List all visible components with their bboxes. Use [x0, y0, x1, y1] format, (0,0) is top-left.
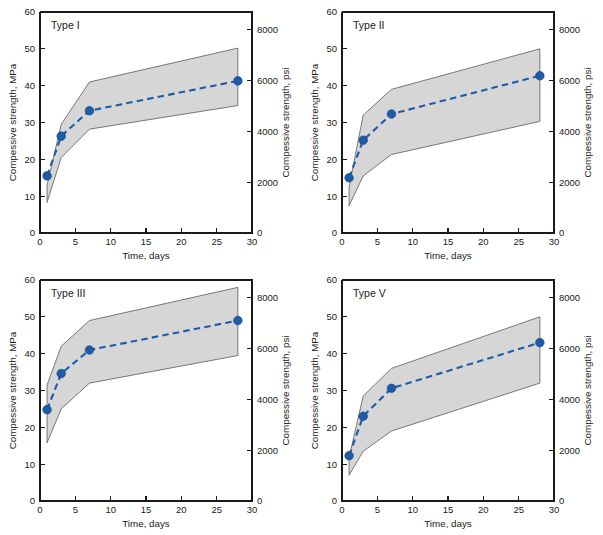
- chart-panel-type-i: 0102030405060020004000600080000510152025…: [0, 0, 301, 267]
- y-left-tick-label: 30: [24, 385, 35, 396]
- chart-svg: 0102030405060020004000600080000510152025…: [302, 268, 603, 535]
- y-right-tick-label: 2000: [559, 177, 580, 188]
- y-left-axis-title: Compessive strength, MPa: [309, 63, 320, 181]
- y-right-tick-label: 2000: [257, 177, 278, 188]
- data-point-marker: [43, 405, 52, 414]
- y-right-axis-title: Compessive strength, psi: [280, 68, 291, 178]
- y-right-tick-label: 6000: [559, 75, 580, 86]
- y-left-tick-label: 40: [24, 348, 35, 359]
- y-right-axis-title: Compessive strength, psi: [582, 68, 593, 178]
- y-left-tick-label: 30: [24, 117, 35, 128]
- y-left-tick-label: 50: [24, 43, 35, 54]
- y-right-tick-label: 8000: [559, 292, 580, 303]
- y-right-tick-label: 2000: [257, 445, 278, 456]
- data-point-marker: [345, 451, 354, 460]
- y-left-tick-label: 0: [30, 495, 35, 506]
- data-point-marker: [234, 316, 243, 325]
- range-band: [47, 48, 238, 202]
- y-left-tick-label: 40: [24, 80, 35, 91]
- x-tick-label: 15: [141, 504, 152, 515]
- y-left-tick-label: 50: [326, 43, 337, 54]
- x-axis-title: Time, days: [424, 250, 472, 261]
- x-tick-label: 5: [375, 236, 380, 247]
- x-tick-label: 25: [513, 236, 524, 247]
- x-tick-label: 25: [211, 504, 222, 515]
- chart-panel-type-ii: 0102030405060020004000600080000510152025…: [302, 0, 603, 267]
- x-tick-label: 5: [73, 504, 78, 515]
- y-right-tick-label: 0: [257, 495, 262, 506]
- x-tick-label: 30: [549, 236, 560, 247]
- y-right-axis-title: Compessive strength, psi: [280, 336, 291, 446]
- x-tick-label: 15: [443, 504, 454, 515]
- panel-label: Type V: [353, 287, 386, 299]
- y-right-tick-label: 8000: [257, 292, 278, 303]
- y-left-tick-label: 10: [326, 459, 337, 470]
- x-tick-label: 30: [247, 236, 258, 247]
- x-tick-label: 30: [549, 504, 560, 515]
- y-right-tick-label: 0: [559, 227, 564, 238]
- panel-label: Type II: [353, 19, 385, 31]
- y-left-axis-title: Compessive strength, MPa: [309, 331, 320, 449]
- chart-panel-type-iii: 0102030405060020004000600080000510152025…: [0, 268, 301, 535]
- y-left-tick-label: 20: [326, 154, 337, 165]
- data-point-marker: [57, 132, 66, 141]
- x-tick-label: 10: [105, 504, 116, 515]
- chart-svg: 0102030405060020004000600080000510152025…: [302, 0, 603, 267]
- y-left-tick-label: 40: [326, 348, 337, 359]
- x-tick-label: 10: [105, 236, 116, 247]
- y-right-tick-label: 4000: [257, 394, 278, 405]
- y-right-tick-label: 4000: [559, 126, 580, 137]
- y-right-tick-label: 6000: [257, 343, 278, 354]
- x-tick-label: 15: [443, 236, 454, 247]
- x-axis-title: Time, days: [122, 250, 170, 261]
- data-point-marker: [387, 110, 396, 119]
- y-left-tick-label: 60: [24, 6, 35, 17]
- y-left-tick-label: 10: [326, 191, 337, 202]
- y-right-tick-label: 2000: [559, 445, 580, 456]
- y-left-tick-label: 30: [326, 117, 337, 128]
- x-tick-label: 20: [176, 504, 187, 515]
- range-band: [349, 317, 540, 475]
- range-band: [47, 287, 238, 442]
- x-tick-label: 20: [176, 236, 187, 247]
- figure-compressive-strength-panels: 0102030405060020004000600080000510152025…: [0, 0, 603, 535]
- x-tick-label: 10: [407, 504, 418, 515]
- chart-svg: 0102030405060020004000600080000510152025…: [0, 268, 301, 535]
- data-point-marker: [387, 384, 396, 393]
- panel-label: Type I: [51, 19, 80, 31]
- x-tick-label: 0: [37, 504, 42, 515]
- data-point-marker: [536, 71, 545, 80]
- panel-label: Type III: [51, 287, 85, 299]
- y-left-tick-label: 60: [326, 274, 337, 285]
- x-tick-label: 0: [37, 236, 42, 247]
- y-left-tick-label: 20: [326, 422, 337, 433]
- y-left-tick-label: 20: [24, 422, 35, 433]
- y-right-tick-label: 0: [559, 495, 564, 506]
- data-point-marker: [536, 338, 545, 347]
- y-right-axis-title: Compessive strength, psi: [582, 336, 593, 446]
- chart-panel-type-v: 0102030405060020004000600080000510152025…: [302, 268, 603, 535]
- x-tick-label: 25: [513, 504, 524, 515]
- y-left-tick-label: 20: [24, 154, 35, 165]
- data-point-marker: [234, 77, 243, 86]
- y-right-tick-label: 8000: [559, 24, 580, 35]
- x-tick-label: 0: [339, 504, 344, 515]
- y-left-tick-label: 50: [24, 311, 35, 322]
- x-tick-label: 10: [407, 236, 418, 247]
- x-tick-label: 5: [73, 236, 78, 247]
- y-left-tick-label: 0: [30, 227, 35, 238]
- y-left-tick-label: 10: [24, 459, 35, 470]
- y-left-axis-title: Compessive strength, MPa: [7, 63, 18, 181]
- data-point-marker: [43, 172, 52, 181]
- y-right-tick-label: 6000: [559, 343, 580, 354]
- data-point-marker: [359, 412, 368, 421]
- x-axis-title: Time, days: [122, 518, 170, 529]
- y-right-tick-label: 4000: [559, 394, 580, 405]
- data-point-marker: [359, 136, 368, 145]
- y-right-tick-label: 4000: [257, 126, 278, 137]
- data-point-marker: [345, 173, 354, 182]
- x-tick-label: 30: [247, 504, 258, 515]
- y-left-tick-label: 50: [326, 311, 337, 322]
- y-right-tick-label: 0: [257, 227, 262, 238]
- y-left-tick-label: 0: [332, 227, 337, 238]
